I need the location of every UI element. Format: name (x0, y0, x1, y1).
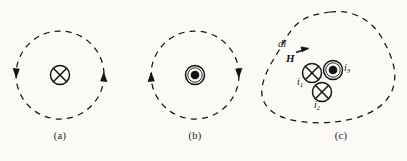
ampere-law-figure: dl H i1 i2 i3 (a) (b) (c) (0, 0, 407, 161)
panel-c-current-i1-icon (303, 64, 322, 83)
current-i1-label: i1 (297, 76, 303, 88)
dl-direction-arrow (296, 46, 310, 52)
current-i2-label: i2 (314, 99, 320, 111)
panel-b-current-out-of-page-icon (186, 66, 205, 85)
panel-b-arrowhead-right (235, 68, 242, 79)
panel-a-current-into-page-icon (51, 66, 70, 85)
panel-caption-c: (c) (321, 130, 361, 141)
panel-a-arrowhead-right (100, 72, 107, 83)
panel-a (13, 31, 108, 119)
panel-c (262, 12, 395, 123)
panel-b-arrowhead-left (148, 72, 155, 83)
panel-a-arrowhead-left (13, 68, 20, 79)
panel-c-current-i3-icon (324, 61, 343, 80)
panel-caption-b: (b) (175, 130, 215, 141)
panel-b (148, 31, 243, 119)
current-i3-label: i3 (344, 62, 350, 74)
panel-caption-a: (a) (40, 130, 80, 141)
h-field-label: H (286, 52, 295, 64)
dl-label: dl (278, 38, 286, 49)
